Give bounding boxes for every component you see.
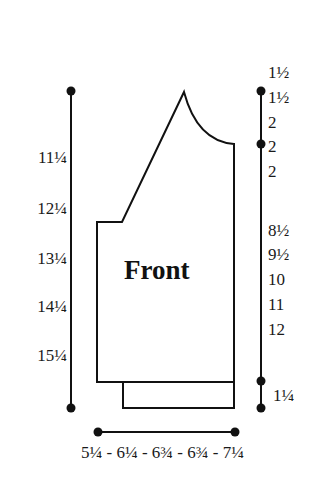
- endpoint-dot: [67, 404, 76, 413]
- right-measure-line: [257, 87, 266, 413]
- endpoint-dot: [257, 404, 266, 413]
- right-top-label-2: 1½: [268, 89, 289, 106]
- left-label-size1: 11¼: [38, 149, 67, 166]
- endpoint-dot: [67, 87, 76, 96]
- endpoint-dot: [257, 87, 266, 96]
- left-label-size5: 15¼: [37, 347, 67, 364]
- left-label-size4: 14¼: [37, 298, 67, 315]
- right-top-label-3: 2: [268, 114, 277, 131]
- piece-title: Front: [124, 256, 190, 284]
- right-top-label-1: 1½: [268, 64, 289, 81]
- right-mid-label-5: 12: [268, 321, 285, 338]
- front-piece-outline: [97, 92, 234, 382]
- marker-dot: [257, 377, 266, 386]
- right-mid-label-1: 8½: [268, 222, 289, 239]
- right-mid-label-2: 9½: [268, 246, 289, 263]
- endpoint-dot: [94, 428, 103, 437]
- endpoint-dot: [231, 428, 240, 437]
- left-label-size3: 13¼: [37, 250, 67, 267]
- bottom-measure-line: [94, 428, 240, 437]
- right-top-label-5: 2: [268, 163, 277, 180]
- left-label-size2: 12¼: [37, 200, 67, 217]
- marker-dot: [257, 140, 266, 149]
- right-hem-label: 1¼: [273, 387, 294, 404]
- left-measure-line: [67, 87, 76, 413]
- right-top-label-4: 2: [268, 138, 277, 155]
- right-mid-label-3: 10: [268, 271, 285, 288]
- right-mid-label-4: 11: [268, 296, 284, 313]
- width-label: 5¼ - 6¼ - 6¾ - 6¾ - 7¼: [0, 443, 325, 463]
- hem-ribbing: [123, 382, 234, 408]
